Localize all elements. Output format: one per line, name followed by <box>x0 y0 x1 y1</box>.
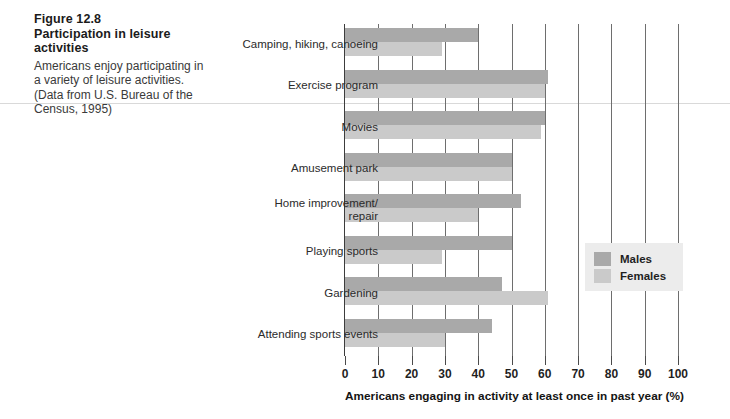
legend-swatch-females-icon <box>594 269 611 283</box>
legend-swatch-males-icon <box>594 252 611 266</box>
x-tick-mark <box>412 356 413 365</box>
x-tick-mark <box>645 356 646 365</box>
x-tick-mark <box>345 356 346 365</box>
category-label: Attending sports events <box>238 328 378 342</box>
bar-row <box>345 190 678 232</box>
x-tick-mark <box>578 356 579 365</box>
figure-caption-heading: Figure 12.8 Participation in leisure act… <box>34 12 206 56</box>
figure-number: Figure 12.8 <box>34 12 101 26</box>
category-label: Exercise program <box>238 79 378 93</box>
gridline <box>678 24 679 356</box>
bar-rows-group <box>345 24 678 356</box>
bar-row <box>345 66 678 108</box>
figure-description: Americans enjoy participating in a varie… <box>34 59 206 117</box>
x-tick-label: 100 <box>658 367 698 381</box>
bar-row <box>345 315 678 357</box>
legend-item-females: Females <box>594 267 675 284</box>
x-tick-mark <box>478 356 479 365</box>
x-tick-mark <box>378 356 379 365</box>
figure-caption: Figure 12.8 Participation in leisure act… <box>34 12 206 117</box>
x-tick-mark <box>512 356 513 365</box>
category-label: Amusement park <box>238 162 378 176</box>
figure-container: Figure 12.8 Participation in leisure act… <box>0 0 730 419</box>
x-axis-title: Americans engaging in activity at least … <box>345 389 678 403</box>
figure-title: Participation in leisure activities <box>34 27 170 56</box>
x-tick-mark <box>445 356 446 365</box>
category-label: Gardening <box>238 287 378 301</box>
legend-label-females: Females <box>620 270 666 282</box>
category-label: Movies <box>238 121 378 135</box>
category-label: Home improvement/repair <box>238 197 378 224</box>
category-label: Playing sports <box>238 245 378 259</box>
plot-area <box>345 24 678 356</box>
legend-label-males: Males <box>620 253 652 265</box>
chart-legend: Males Females <box>585 243 683 291</box>
category-label: Camping, hiking, canoeing <box>238 38 378 52</box>
bar-row <box>345 149 678 191</box>
bar-row <box>345 24 678 66</box>
bar-row <box>345 107 678 149</box>
legend-item-males: Males <box>594 250 675 267</box>
x-tick-mark <box>545 356 546 365</box>
x-tick-mark <box>678 356 679 365</box>
x-tick-mark <box>611 356 612 365</box>
